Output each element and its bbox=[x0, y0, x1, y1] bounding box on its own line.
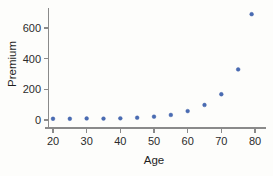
x-axis-title: Age bbox=[144, 154, 164, 166]
data-point bbox=[152, 115, 156, 119]
data-point bbox=[236, 68, 240, 72]
x-tick-label-60: 60 bbox=[182, 135, 194, 147]
scatter-plot-figure: 020040060020304050607080AgePremium bbox=[0, 0, 273, 176]
data-point-group bbox=[51, 12, 253, 120]
chart-canvas: 020040060020304050607080AgePremium bbox=[0, 0, 273, 176]
data-point bbox=[250, 12, 254, 16]
data-point bbox=[85, 117, 89, 121]
x-tick-label-80: 80 bbox=[249, 135, 261, 147]
x-tick-label-20: 20 bbox=[47, 135, 59, 147]
x-tick-label-50: 50 bbox=[148, 135, 160, 147]
y-tick-label-400: 400 bbox=[23, 53, 41, 65]
data-point bbox=[219, 92, 223, 96]
y-axis-title: Premium bbox=[6, 41, 18, 87]
data-point bbox=[169, 113, 173, 117]
y-tick-label-0: 0 bbox=[35, 114, 41, 126]
data-point bbox=[102, 117, 106, 121]
data-point bbox=[135, 116, 139, 120]
x-tick-label-70: 70 bbox=[215, 135, 227, 147]
y-tick-label-200: 200 bbox=[23, 83, 41, 95]
x-tick-label-30: 30 bbox=[81, 135, 93, 147]
y-tick-label-600: 600 bbox=[23, 22, 41, 34]
data-point bbox=[51, 117, 55, 121]
data-point bbox=[186, 109, 190, 113]
data-point bbox=[118, 116, 122, 120]
data-point bbox=[68, 117, 72, 121]
x-tick-label-40: 40 bbox=[114, 135, 126, 147]
data-point bbox=[203, 103, 207, 107]
